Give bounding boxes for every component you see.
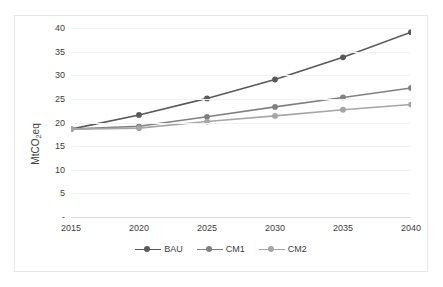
chart-figure: MtCO2eq -510152025303540 201520202025203… (14, 15, 428, 272)
gridline-30 (71, 75, 411, 76)
y-tick-label-30: 30 (25, 70, 65, 80)
data-point-cm2-2020 (136, 125, 142, 131)
series-bau (71, 29, 411, 132)
data-point-cm2-2035 (340, 107, 346, 113)
y-axis-title-sub: 2 (34, 134, 43, 138)
x-tick-label-2025: 2025 (197, 223, 217, 233)
legend-item-bau[interactable]: BAU (135, 244, 183, 254)
gridline-5 (71, 193, 411, 194)
legend-marker-icon (144, 246, 150, 252)
legend-swatch-cm1 (197, 245, 223, 254)
legend-item-cm1[interactable]: CM1 (197, 244, 245, 254)
data-point-bau-2040 (408, 29, 411, 35)
y-tick-label-15: 15 (25, 141, 65, 151)
data-point-cm2-2015 (71, 126, 74, 132)
legend-label-bau: BAU (164, 244, 183, 254)
plot-area: -510152025303540 20152020202520302035204… (71, 28, 411, 217)
y-tick-label-10: 10 (25, 165, 65, 175)
gridline-15 (71, 146, 411, 147)
gridline-20 (71, 123, 411, 124)
y-tick-label-25: 25 (25, 94, 65, 104)
x-tick-label-2040: 2040 (401, 223, 421, 233)
legend-swatch-cm2 (259, 245, 285, 254)
data-point-cm2-2030 (272, 113, 278, 119)
legend-item-cm2[interactable]: CM2 (259, 244, 307, 254)
series-line-bau (71, 32, 411, 129)
data-point-cm1-2040 (408, 85, 411, 91)
legend-label-cm1: CM1 (226, 244, 245, 254)
data-point-bau-2020 (136, 112, 142, 118)
y-tick-label-35: 35 (25, 47, 65, 57)
x-tick-label-2020: 2020 (129, 223, 149, 233)
legend-label-cm2: CM2 (288, 244, 307, 254)
series-line-cm2 (71, 105, 411, 130)
x-tick-label-2030: 2030 (265, 223, 285, 233)
x-axis-tick-labels: 201520202025203020352040 (71, 223, 411, 237)
gridline-25 (71, 99, 411, 100)
data-point-cm2-2040 (408, 102, 411, 108)
y-tick-label-20: 20 (25, 118, 65, 128)
gridline-40 (71, 28, 411, 29)
y-tick-label-5: 5 (25, 188, 65, 198)
legend-marker-icon (206, 246, 212, 252)
x-tick-label-2035: 2035 (333, 223, 353, 233)
x-tick-label-2015: 2015 (61, 223, 81, 233)
y-tick-label-0: - (25, 212, 65, 222)
data-point-bau-2035 (340, 54, 346, 60)
gridline-10 (71, 170, 411, 171)
gridline-0 (71, 217, 411, 218)
data-point-cm1-2030 (272, 104, 278, 110)
chart-legend: BAUCM1CM2 (15, 244, 427, 254)
data-point-bau-2030 (272, 77, 278, 83)
y-tick-label-40: 40 (25, 23, 65, 33)
legend-swatch-bau (135, 245, 161, 254)
gridline-35 (71, 52, 411, 53)
legend-marker-icon (268, 246, 274, 252)
